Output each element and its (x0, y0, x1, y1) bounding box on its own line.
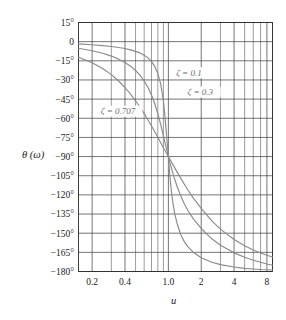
y-tick-label: −105° (51, 171, 75, 181)
plot-frame (79, 23, 273, 272)
x-tick-label: 0.4 (119, 277, 131, 287)
y-tick-label: −180° (51, 267, 75, 277)
y-tick-label: −60° (55, 114, 74, 124)
y-tick-label: −150° (51, 229, 75, 239)
y-tick-label: −90° (55, 152, 74, 162)
gridlines-vertical-major (92, 23, 267, 272)
phase-angle-chart: 15°0−15°−30°−45°−60°−75°−90°−105°−120°−1… (0, 0, 286, 320)
annotation-zeta-0.3: ζ = 0.3 (188, 87, 214, 97)
y-tick-label: 0 (69, 37, 74, 47)
y-axis-title: θ (ω) (22, 149, 45, 161)
y-tick-label: −120° (51, 190, 75, 200)
x-tick-label: 8 (265, 277, 270, 287)
x-tick-label: 2 (199, 277, 204, 287)
y-tick-label: −135° (51, 209, 75, 219)
curve-annotations: ζ = 0.1ζ = 0.3ζ = 0.707 (98, 67, 221, 116)
chart-canvas: 15°0−15°−30°−45°−60°−75°−90°−105°−120°−1… (0, 0, 286, 320)
gridlines-horizontal (79, 23, 273, 272)
x-tick-label: 0.2 (86, 277, 98, 287)
annotation-zeta-0.707: ζ = 0.707 (101, 106, 136, 116)
y-tick-label: −30° (55, 75, 74, 85)
y-tick-label: 15° (61, 18, 75, 28)
y-tick-label: −45° (55, 95, 74, 105)
y-tick-label: −75° (55, 133, 74, 143)
x-tick-label: 1.0 (162, 277, 174, 287)
y-tick-label: −165° (51, 248, 75, 258)
y-tick-label: −15° (55, 56, 74, 66)
annotation-zeta-0.1: ζ = 0.1 (176, 68, 201, 78)
gridlines-vertical-minor (111, 23, 272, 272)
x-axis-ticks: 0.20.41.0248 (86, 277, 269, 287)
x-axis-title: u (171, 295, 176, 306)
y-axis-ticks: 15°0−15°−30°−45°−60°−75°−90°−105°−120°−1… (51, 18, 75, 277)
series-curve-zeta-0.707 (79, 57, 273, 257)
x-tick-label: 4 (232, 277, 237, 287)
